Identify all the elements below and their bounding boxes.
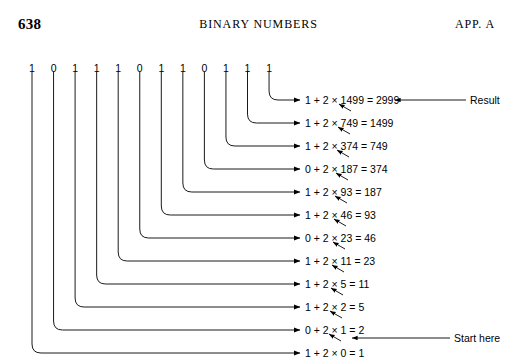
equation-row: 1 + 2 × 11 = 23	[305, 255, 375, 267]
digit-wire	[204, 72, 300, 169]
equation-row: 1 + 2 × 0 = 1	[305, 347, 364, 359]
binary-conversion-figure: 101110110111 1 + 2 × 1499 = 29991 + 2 × …	[0, 0, 517, 361]
equation-row: 0 + 2 × 1 = 2	[305, 324, 364, 336]
result-label: Result	[470, 94, 500, 106]
digit-wire	[248, 72, 301, 123]
digit-wire	[118, 72, 300, 261]
binary-digit: 0	[198, 63, 210, 74]
digit-wire	[226, 72, 300, 146]
equation-row: 1 + 2 × 93 = 187	[305, 186, 382, 198]
digit-wire	[32, 72, 300, 353]
digit-wire	[75, 72, 300, 307]
start-here-label: Start here	[454, 332, 500, 344]
binary-digit: 1	[69, 63, 81, 74]
binary-digit: 1	[155, 63, 167, 74]
binary-digit: 0	[48, 63, 60, 74]
binary-digit: 1	[91, 63, 103, 74]
binary-digit: 1	[263, 63, 275, 74]
equation-row: 0 + 2 × 187 = 374	[305, 163, 388, 175]
binary-digit: 1	[112, 63, 124, 74]
digit-wire	[54, 72, 300, 330]
digit-wire	[269, 72, 300, 100]
binary-digit: 1	[177, 63, 189, 74]
page-canvas: 638 BINARY NUMBERS APP. A 101110110111 1…	[0, 0, 517, 361]
digit-wire	[161, 72, 300, 215]
binary-digit: 1	[26, 63, 38, 74]
equation-row: 1 + 2 × 749 = 1499	[305, 117, 393, 129]
wire-diagram	[0, 0, 517, 361]
digit-wire	[183, 72, 300, 192]
equation-row: 0 + 2 × 23 = 46	[305, 232, 376, 244]
binary-digit: 1	[242, 63, 254, 74]
equation-row: 1 + 2 × 5 = 11	[305, 278, 369, 290]
binary-digit: 0	[134, 63, 146, 74]
digit-wire	[97, 72, 300, 284]
equation-row: 1 + 2 × 2 = 5	[305, 301, 364, 313]
equation-row: 1 + 2 × 374 = 749	[305, 140, 388, 152]
equation-row: 1 + 2 × 1499 = 2999	[305, 94, 399, 106]
binary-digit: 1	[220, 63, 232, 74]
equation-row: 1 + 2 × 46 = 93	[305, 209, 376, 221]
